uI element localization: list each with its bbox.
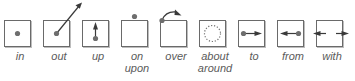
label: with: [306, 50, 355, 62]
item-from: from: [273, 0, 313, 81]
arrow-left-from-dot-icon: [273, 0, 313, 50]
item-to: to: [234, 0, 274, 81]
item-about: about around: [195, 0, 235, 81]
item-out: out: [39, 0, 79, 81]
dotted-circle-icon: [195, 0, 235, 50]
label-line: with: [306, 50, 355, 62]
arrow-up-icon: [78, 0, 118, 50]
item-in: in: [0, 0, 40, 81]
item-on: on upon: [117, 0, 157, 81]
dot-inside-box-icon: [0, 0, 40, 50]
item-with: with: [312, 0, 352, 81]
dot-on-top-icon: [117, 0, 157, 50]
arrow-right-from-dot-icon: [234, 0, 274, 50]
curved-arrow-over-icon: [156, 0, 196, 50]
preposition-diagram: in out up on upon: [0, 0, 355, 81]
arrows-converging-icon: [312, 0, 355, 50]
